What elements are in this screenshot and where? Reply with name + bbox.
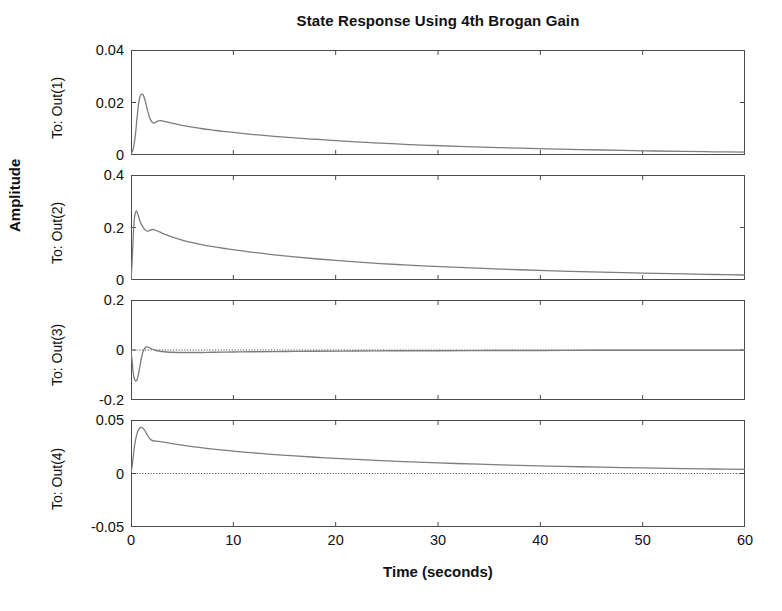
subplot-out4: -0.0500.05To: Out(4) <box>131 420 745 527</box>
subplot-row-label: To: Out(3) <box>49 324 65 386</box>
x-axis-label: Time (seconds) <box>131 563 745 580</box>
subplot-out1: 00.020.04To: Out(1) <box>131 50 745 155</box>
subplot-out2: 00.20.4To: Out(2) <box>131 175 745 280</box>
y-tick-label: -0.2 <box>99 392 124 408</box>
x-tick-label: 10 <box>225 532 241 548</box>
y-tick-label: -0.05 <box>91 519 124 535</box>
y-tick-label: 0 <box>116 272 124 288</box>
response-curve <box>131 94 745 154</box>
y-tick-label: 0.04 <box>96 42 124 58</box>
y-tick-label: 0.2 <box>104 220 124 236</box>
y-tick-label: 0 <box>116 466 124 482</box>
subplot-row-label: To: Out(1) <box>49 76 65 138</box>
chart-title: State Response Using 4th Brogan Gain <box>131 12 745 29</box>
plot-area <box>131 50 745 155</box>
response-curve <box>131 347 745 381</box>
y-tick-label: 0 <box>116 147 124 163</box>
x-tick-label: 20 <box>328 532 344 548</box>
plot-area <box>131 300 745 400</box>
y-tick-label: 0.2 <box>104 292 124 308</box>
subplot-row-label: To: Out(4) <box>49 447 65 509</box>
y-tick-label: 0 <box>116 342 124 358</box>
plot-area <box>131 420 745 527</box>
subplot-row-label: To: Out(2) <box>49 201 65 263</box>
subplot-out3: -0.200.2To: Out(3) <box>131 300 745 400</box>
x-tick-label: 60 <box>737 532 753 548</box>
response-curve <box>131 427 745 472</box>
y-tick-label: 0.05 <box>96 412 124 428</box>
figure-canvas: State Response Using 4th Brogan Gain Amp… <box>0 0 782 611</box>
y-tick-label: 0.02 <box>96 95 124 111</box>
response-curve <box>131 211 745 279</box>
x-tick-label: 30 <box>430 532 446 548</box>
y-tick-label: 0.4 <box>104 167 124 183</box>
x-tick-label: 0 <box>127 532 135 548</box>
x-tick-label: 40 <box>532 532 548 548</box>
y-axis-label: Amplitude <box>6 206 23 232</box>
plot-area <box>131 175 745 280</box>
x-tick-label: 50 <box>635 532 651 548</box>
